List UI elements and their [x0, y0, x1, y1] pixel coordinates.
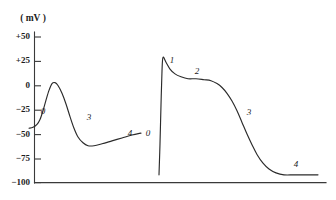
- phase-label-3: 3: [86, 112, 92, 122]
- y-tick-label-plus-50: +50: [16, 31, 31, 41]
- chart-svg: ( mV ) +50 +25 0 −25 −50 −75 −100: [0, 0, 336, 200]
- phase-label-0: 0: [41, 106, 46, 116]
- trace-cardiac-muscle-action-potential: [159, 57, 318, 175]
- phase-label-0: 0: [146, 128, 151, 138]
- y-tick-label-minus-100: −100: [11, 177, 30, 187]
- phase-label-3: 3: [246, 107, 252, 117]
- phase-labels-cardiac-muscle: 01234: [146, 55, 299, 169]
- trace-pacemaker-action-potential: [29, 82, 141, 146]
- phase-labels-pacemaker: 034: [41, 106, 133, 138]
- y-axis-unit-label: ( mV ): [20, 13, 46, 24]
- y-tick-label-zero: 0: [26, 80, 31, 90]
- y-tick-label-plus-25: +25: [16, 55, 31, 65]
- y-tick-label-minus-75: −75: [16, 153, 31, 163]
- y-tick-label-minus-50: −50: [16, 129, 31, 139]
- action-potential-chart: ( mV ) +50 +25 0 −25 −50 −75 −100: [0, 0, 336, 200]
- y-tick-label-minus-25: −25: [16, 104, 31, 114]
- phase-label-1: 1: [170, 55, 175, 65]
- phase-label-2: 2: [195, 66, 200, 76]
- phase-label-4: 4: [294, 159, 299, 169]
- phase-label-4: 4: [128, 128, 133, 138]
- y-axis-tick-labels: +50 +25 0 −25 −50 −75 −100: [11, 31, 30, 187]
